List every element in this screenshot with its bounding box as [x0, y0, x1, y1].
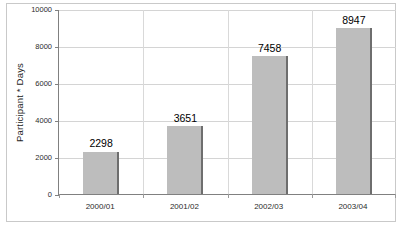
bar-chart: Participant * Days 020004000600080001000…	[0, 0, 411, 230]
x-axis-tick	[228, 194, 229, 198]
y-axis-tick	[55, 121, 59, 122]
bar	[252, 56, 288, 194]
y-axis-title: Participant * Days	[13, 32, 27, 172]
bar-value-label: 2298	[89, 138, 112, 149]
gridline-vertical	[312, 10, 313, 195]
y-axis-tick-label: 4000	[35, 117, 52, 125]
y-axis-tick-label: 10000	[31, 6, 52, 14]
gridline-vertical	[143, 10, 144, 195]
y-axis-tick	[55, 10, 59, 11]
bar	[167, 126, 203, 194]
x-axis-tick	[143, 194, 144, 198]
x-axis-tick	[59, 194, 60, 198]
x-axis-tick	[312, 194, 313, 198]
x-axis-category-label: 2001/02	[170, 203, 199, 211]
gridline-vertical	[228, 10, 229, 195]
y-axis-tick-label: 8000	[35, 43, 52, 51]
y-axis-tick-label: 2000	[35, 154, 52, 162]
y-axis-tick	[55, 158, 59, 159]
y-axis-tick-label: 0	[48, 191, 52, 199]
bar-value-label: 3651	[174, 113, 197, 124]
y-axis-tick	[55, 84, 59, 85]
y-axis-title-text: Participant * Days	[15, 62, 26, 141]
x-axis-category-label: 2003/04	[338, 203, 367, 211]
bar	[83, 152, 119, 195]
y-axis-tick-label: 6000	[35, 80, 52, 88]
y-axis-tick	[55, 47, 59, 48]
bar-value-label: 8947	[342, 15, 365, 26]
bar	[336, 28, 372, 194]
plot-area: 02000400060008000100002298365174588947	[58, 10, 395, 195]
x-axis-category-label: 2002/03	[254, 203, 283, 211]
bar-value-label: 7458	[258, 43, 281, 54]
x-axis-tick	[395, 194, 396, 198]
x-axis-category-label: 2000/01	[86, 203, 115, 211]
